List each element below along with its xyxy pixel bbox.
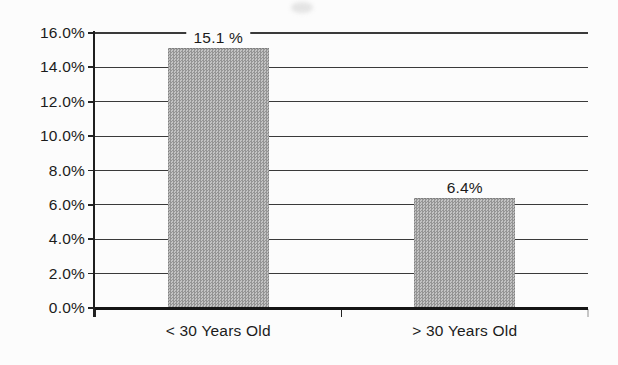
y-axis-label: 0.0% <box>0 299 85 317</box>
x-axis-category-label: > 30 Years Old <box>412 322 517 340</box>
gridline <box>95 32 588 33</box>
bar-value-label: 6.4% <box>440 179 490 197</box>
scan-artifact-smudge <box>291 2 313 13</box>
x-axis-line <box>95 307 588 310</box>
y-axis-label: 12.0% <box>0 93 85 111</box>
y-axis-line <box>93 31 95 317</box>
bar-value-label: 15.1 % <box>187 29 250 47</box>
bar-chart: 15.1 %6.4% 0.0%2.0%4.0%6.0%8.0%10.0%12.0… <box>0 0 618 365</box>
y-axis-label: 4.0% <box>0 230 85 248</box>
bar <box>168 48 269 308</box>
y-axis-label: 10.0% <box>0 127 85 145</box>
bar <box>414 198 515 308</box>
y-axis-label: 6.0% <box>0 196 85 214</box>
x-axis-tick <box>587 309 589 317</box>
x-axis-category-label: < 30 Years Old <box>166 322 271 340</box>
y-axis-label: 14.0% <box>0 58 85 76</box>
y-axis-label: 16.0% <box>0 24 85 42</box>
x-axis-tick <box>341 309 343 317</box>
y-axis-label: 2.0% <box>0 265 85 283</box>
plot-area: 15.1 %6.4% 0.0%2.0%4.0%6.0%8.0%10.0%12.0… <box>95 33 588 308</box>
y-axis-label: 8.0% <box>0 162 85 180</box>
